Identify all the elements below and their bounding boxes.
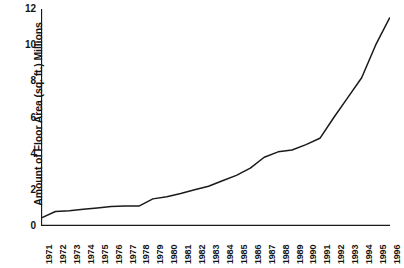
x-tick-label: 1993 xyxy=(351,245,360,264)
x-tick-label: 1987 xyxy=(268,245,277,264)
x-tick-label: 1990 xyxy=(309,245,318,264)
x-tick-label: 1976 xyxy=(115,245,124,264)
x-tick-label: 1995 xyxy=(379,245,388,264)
plot-svg xyxy=(41,9,390,226)
x-tick-label: 1980 xyxy=(170,245,179,264)
x-axis-tick-labels: 1971197219731974197519761977197819791980… xyxy=(41,230,393,268)
x-tick-label: 1988 xyxy=(282,245,291,264)
x-tick-label: 1977 xyxy=(129,245,138,264)
x-tick-label: 1984 xyxy=(226,245,235,264)
x-tick-label: 1996 xyxy=(393,245,402,264)
y-tick-label: 2 xyxy=(20,185,36,195)
x-tick-label: 1991 xyxy=(323,245,332,264)
plot-area xyxy=(41,9,390,226)
x-tick-label: 1974 xyxy=(87,245,96,264)
x-tick-label: 1985 xyxy=(240,245,249,264)
y-tick-label: 6 xyxy=(20,113,36,123)
line-chart: Amount of Floor Area (sq. ft.) Millions … xyxy=(0,0,404,268)
x-tick-label: 1983 xyxy=(212,245,221,264)
y-tick-label: 0 xyxy=(20,221,36,231)
x-tick-label: 1981 xyxy=(184,245,193,264)
y-tick-label: 8 xyxy=(20,76,36,86)
x-tick-label: 1994 xyxy=(365,245,374,264)
x-tick-label: 1972 xyxy=(59,245,68,264)
x-tick-label: 1978 xyxy=(142,245,151,264)
x-tick-label: 1971 xyxy=(45,245,54,264)
y-tick-label: 10 xyxy=(20,40,36,50)
x-tick-label: 1973 xyxy=(73,245,82,264)
x-tick-label: 1982 xyxy=(198,245,207,264)
y-tick-label: 4 xyxy=(20,149,36,159)
x-tick-label: 1992 xyxy=(337,245,346,264)
data-series-line xyxy=(42,18,390,218)
chart-title xyxy=(0,0,404,6)
y-tick-label: 12 xyxy=(20,4,36,14)
x-tick-label: 1986 xyxy=(254,245,263,264)
x-tick-label: 1979 xyxy=(156,245,165,264)
x-tick-label: 1989 xyxy=(296,245,305,264)
y-axis-tick-labels: 024681012 xyxy=(16,9,36,226)
x-tick-label: 1975 xyxy=(101,245,110,264)
